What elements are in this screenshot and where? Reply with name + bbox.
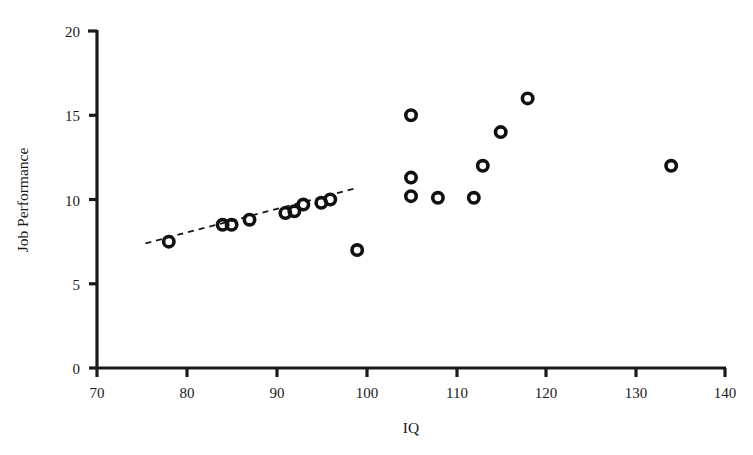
x-tick-label-130: 130 bbox=[625, 385, 648, 401]
x-tick-label-140: 140 bbox=[714, 385, 737, 401]
x-tick-label-120: 120 bbox=[535, 385, 558, 401]
x-tick-label-70: 70 bbox=[90, 385, 105, 401]
x-tick-label-80: 80 bbox=[180, 385, 195, 401]
x-tick-label-110: 110 bbox=[446, 385, 468, 401]
x-axis-title: IQ bbox=[403, 419, 419, 436]
y-tick-label-10: 10 bbox=[65, 193, 80, 209]
y-axis-title: Job Performance bbox=[14, 148, 31, 253]
y-tick-label-0: 0 bbox=[73, 361, 81, 377]
chart-canvas: 20 15 10 5 0 70 80 90 100 110 1 bbox=[0, 0, 753, 455]
x-tick-label-90: 90 bbox=[270, 385, 285, 401]
scatter-plot-figure: 20 15 10 5 0 70 80 90 100 110 1 bbox=[0, 0, 753, 455]
y-tick-label-15: 15 bbox=[65, 108, 80, 124]
y-tick-label-5: 5 bbox=[73, 277, 81, 293]
y-tick-label-20: 20 bbox=[65, 24, 80, 40]
x-tick-label-100: 100 bbox=[356, 385, 379, 401]
